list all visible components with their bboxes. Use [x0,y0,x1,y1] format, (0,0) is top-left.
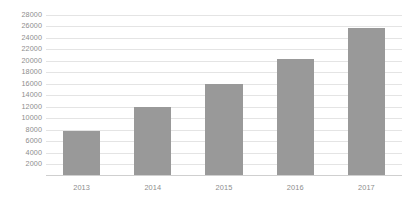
x-tick-label: 2013 [73,184,90,191]
y-tick-label: 10000 [22,115,43,122]
bar[interactable] [134,107,171,176]
bar-chart-figure: 2000400060008000100001200014000160001800… [0,0,413,205]
plot-area [46,10,402,176]
y-tick-label: 4000 [26,149,42,156]
bar[interactable] [63,131,100,176]
y-tick-label: 24000 [22,34,43,41]
y-tick-label: 22000 [22,46,43,53]
y-tick-label: 14000 [22,92,43,99]
bar[interactable] [205,84,242,176]
y-tick-label: 6000 [26,138,42,145]
x-tick-label: 2014 [144,184,161,191]
bar[interactable] [277,59,314,176]
bar[interactable] [348,28,385,176]
y-axis: 2000400060008000100001200014000160001800… [0,0,46,205]
x-tick-label: 2017 [358,184,375,191]
y-tick-label: 26000 [22,23,43,30]
x-axis: 20132014201520162017 [46,176,402,205]
y-tick-label: 2000 [26,161,42,168]
y-tick-label: 8000 [26,126,42,133]
bar-slot [348,10,385,176]
x-tick-label: 2015 [216,184,233,191]
bar-slot [277,10,314,176]
y-tick-label: 20000 [22,57,43,64]
bars-group [46,10,402,176]
bar-slot [134,10,171,176]
bar-slot [205,10,242,176]
y-tick-label: 12000 [22,103,43,110]
bar-slot [63,10,100,176]
x-tick-label: 2016 [287,184,304,191]
y-tick-label: 16000 [22,80,43,87]
y-tick-label: 18000 [22,69,43,76]
y-tick-label: 28000 [22,11,43,18]
